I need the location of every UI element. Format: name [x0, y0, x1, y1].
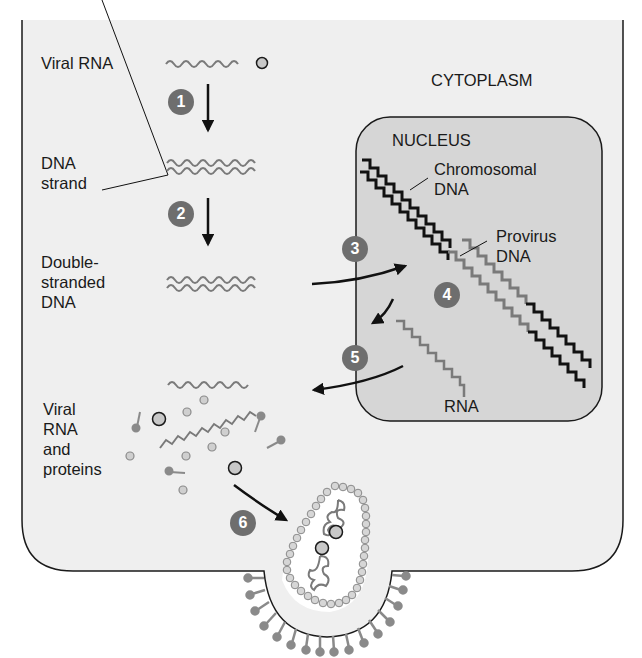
label-double-stranded-dna: Double- stranded DNA: [41, 252, 105, 312]
step-badge-1: 1: [168, 89, 194, 115]
step-badge-4: 4: [434, 282, 460, 308]
step-badge-6: 6: [230, 510, 256, 536]
label-viral-rna-and-proteins: Viral RNA and proteins: [43, 399, 102, 479]
label-viral-rna: Viral RNA: [41, 53, 113, 73]
step-badge-5: 5: [342, 345, 368, 371]
retrovirus-lifecycle-diagram: [0, 0, 642, 658]
step-badge-2: 2: [168, 201, 194, 227]
step-badge-3: 3: [342, 236, 368, 262]
label-provirus-dna: Provirus DNA: [496, 226, 557, 266]
label-chromosomal-dna: Chromosomal DNA: [434, 159, 537, 199]
label-rna: RNA: [444, 396, 479, 416]
label-nucleus: NUCLEUS: [392, 130, 471, 150]
label-cytoplasm: CYTOPLASM: [431, 70, 532, 90]
label-dna-strand: DNA strand: [41, 153, 87, 193]
